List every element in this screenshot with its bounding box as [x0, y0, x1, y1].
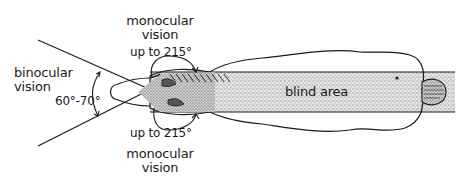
monocular-vision-top-label: monocular vision	[120, 14, 200, 42]
monocular-top-angle-label: up to 215°	[130, 45, 192, 59]
monocular-bottom-angle-label: up to 215°	[130, 126, 192, 140]
monocular-top-line1: monocular	[120, 14, 200, 28]
blind-area-label: blind area	[285, 85, 348, 99]
horse-tail	[422, 79, 446, 105]
monocular-bottom-line1: monocular	[120, 147, 200, 161]
visual-field-diagram: binocular vision 60°-70° monocular visio…	[0, 0, 475, 183]
binocular-label-line1: binocular	[14, 66, 94, 80]
back-mark	[395, 76, 398, 79]
monocular-bottom-line2: vision	[120, 161, 200, 175]
binocular-angle-label: 60°-70°	[55, 94, 100, 108]
binocular-vision-label: binocular vision	[14, 66, 94, 94]
binocular-label-line2: vision	[14, 80, 94, 94]
monocular-top-line2: vision	[120, 28, 200, 42]
monocular-vision-bottom-label: monocular vision	[120, 147, 200, 175]
